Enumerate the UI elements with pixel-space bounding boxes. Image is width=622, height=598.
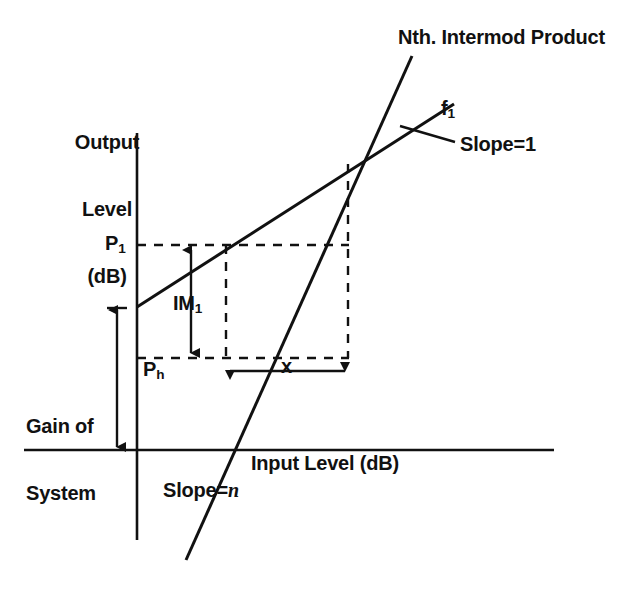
- curve-f1-label: f1: [441, 97, 455, 121]
- gain-of-system-line-2: System: [26, 482, 118, 504]
- intermod-intercept-diagram: Output Level (dB) Nth. Intermod Product …: [0, 0, 622, 598]
- y-axis-label-line-1: Output: [52, 131, 162, 153]
- im1-sub: 1: [195, 301, 202, 316]
- ph-base: P: [143, 358, 156, 380]
- ph-sub: h: [156, 367, 164, 382]
- p1-sub: 1: [118, 241, 125, 256]
- gain-of-system-label: Gain of System: [26, 370, 118, 549]
- y-axis-label: Output Level (dB): [52, 86, 162, 332]
- slope-n-symbol: n: [228, 479, 239, 501]
- im1-base: IM: [173, 292, 195, 314]
- y-axis-label-line-3: (dB): [52, 265, 162, 287]
- gain-of-system-line-1: Gain of: [26, 415, 118, 437]
- im1-marker-label: IM1: [173, 292, 202, 316]
- slope-1-annotation: Slope=1: [460, 133, 536, 155]
- slope-n-annotation: Slope=n: [163, 479, 239, 501]
- y-axis-label-line-2: Level: [52, 198, 162, 220]
- p1-marker-label: P1: [105, 232, 126, 256]
- p1-base: P: [105, 232, 118, 254]
- curve-f1-line: [137, 104, 454, 307]
- x-span-label: x: [281, 355, 292, 377]
- slope-n-base: Slope=: [163, 479, 228, 501]
- ph-marker-label: Ph: [143, 358, 164, 382]
- curve-f1-label-sub: 1: [447, 106, 454, 121]
- nth-intermod-product-label: Nth. Intermod Product: [398, 26, 605, 48]
- x-axis-label: Input Level (dB): [251, 452, 399, 474]
